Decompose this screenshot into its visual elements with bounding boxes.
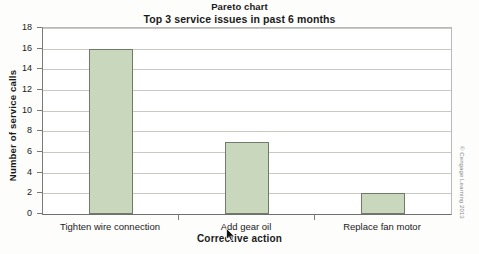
x-axis-category-label: Replace fan motor bbox=[292, 221, 472, 232]
y-axis-tick bbox=[37, 89, 42, 90]
y-axis-tick bbox=[37, 151, 42, 152]
y-axis-tick bbox=[37, 213, 42, 214]
plot-area bbox=[42, 27, 452, 215]
y-axis-tick-label: 16 bbox=[22, 44, 32, 53]
y-axis-tick bbox=[37, 130, 42, 131]
y-axis-tick-label: 6 bbox=[27, 147, 32, 156]
y-axis-tick-label: 12 bbox=[22, 85, 32, 94]
chart-title-block: Pareto chart Top 3 service issues in pas… bbox=[0, 1, 479, 26]
y-axis-tick-label: 0 bbox=[27, 209, 32, 218]
y-axis-tick-label: 2 bbox=[27, 188, 32, 197]
y-axis-tick bbox=[37, 110, 42, 111]
y-axis-tick-labels: 024681012141618 bbox=[0, 0, 38, 254]
y-axis-tick bbox=[37, 192, 42, 193]
x-axis-tick bbox=[178, 214, 179, 220]
x-axis-tick bbox=[314, 214, 315, 220]
y-axis-tick bbox=[37, 68, 42, 69]
chart-subtitle: Top 3 service issues in past 6 months bbox=[0, 13, 479, 26]
gridline bbox=[43, 28, 451, 29]
chart-title: Pareto chart bbox=[0, 1, 479, 13]
y-axis-tick bbox=[37, 172, 42, 173]
y-axis-tick-label: 10 bbox=[22, 106, 32, 115]
x-axis-title: Corrective action bbox=[0, 233, 479, 244]
y-axis-tick bbox=[37, 27, 42, 28]
y-axis-tick-label: 4 bbox=[27, 168, 32, 177]
bar bbox=[225, 142, 269, 214]
y-axis-tick-label: 8 bbox=[27, 126, 32, 135]
pareto-chart-screenshot: Pareto chart Top 3 service issues in pas… bbox=[0, 0, 479, 254]
y-axis-tick-label: 14 bbox=[22, 64, 32, 73]
y-axis-tick-label: 18 bbox=[22, 23, 32, 32]
y-axis-tick bbox=[37, 48, 42, 49]
bar bbox=[361, 193, 405, 214]
bar bbox=[89, 49, 133, 214]
copyright-credit: © Cengage Learning 2013 bbox=[458, 146, 465, 242]
